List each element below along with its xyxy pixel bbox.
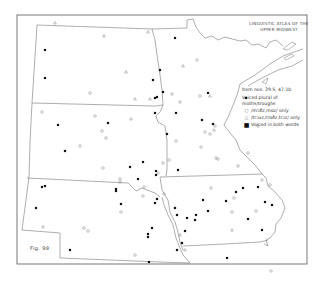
open-triangle-marker bbox=[134, 98, 137, 101]
filled-square-marker bbox=[151, 227, 153, 229]
filled-square-marker bbox=[156, 198, 158, 200]
filled-square-marker bbox=[115, 188, 117, 190]
filled-square-marker bbox=[41, 186, 43, 188]
filled-square-marker bbox=[207, 210, 209, 212]
open-triangle-marker bbox=[213, 129, 216, 132]
open-circle-icon: ○ bbox=[242, 108, 251, 114]
minnesota-west-border bbox=[152, 29, 167, 176]
open-circle-marker bbox=[247, 152, 250, 155]
open-circle-marker bbox=[199, 95, 202, 98]
open-circle-marker bbox=[269, 184, 272, 187]
legend-entry-filled-square: ■ Voiced in both words bbox=[242, 122, 314, 128]
filled-square-marker bbox=[35, 207, 37, 209]
iowa-west-border bbox=[160, 177, 183, 250]
filled-square-marker bbox=[175, 112, 177, 114]
legend-entry-label: /trɔvz,trɑðz,trɔz/ only bbox=[251, 115, 300, 121]
open-circle-marker bbox=[105, 137, 108, 140]
filled-square-marker bbox=[155, 174, 157, 176]
filled-square-marker bbox=[154, 202, 156, 204]
filled-square-marker bbox=[261, 229, 263, 231]
filled-square-marker bbox=[154, 112, 156, 114]
filled-square-marker bbox=[154, 97, 156, 99]
filled-square-marker bbox=[177, 169, 179, 171]
legend: Item nos. 29.5, 47.1b Voiced plural of m… bbox=[242, 87, 314, 128]
open-circle-marker bbox=[270, 270, 273, 273]
open-circle-marker bbox=[89, 92, 92, 95]
open-circle-marker bbox=[175, 140, 178, 143]
atlas-title-line1: LINGUISTIC ATLAS OF THE bbox=[244, 21, 314, 27]
iowa-east-border bbox=[262, 174, 285, 246]
filled-square-marker bbox=[225, 200, 227, 202]
legend-entry-label: Voiced in both words bbox=[251, 122, 299, 128]
lake-superior-shore bbox=[240, 49, 303, 84]
filled-square-marker bbox=[176, 214, 178, 216]
filled-square-marker bbox=[174, 207, 176, 209]
filled-square-marker bbox=[207, 92, 209, 94]
open-triangle-marker bbox=[184, 249, 187, 252]
filled-square-marker bbox=[69, 249, 71, 251]
open-circle-marker bbox=[237, 165, 240, 168]
open-triangle-marker bbox=[125, 71, 128, 74]
legend-item-numbers: Item nos. 29.5, 47.1b bbox=[242, 87, 314, 93]
open-circle-marker bbox=[102, 167, 105, 170]
filled-square-marker bbox=[44, 49, 46, 51]
filled-square-marker bbox=[107, 122, 109, 124]
map-frame bbox=[17, 15, 307, 264]
open-triangle-marker bbox=[103, 35, 106, 38]
filled-square-icon: ■ bbox=[242, 122, 251, 128]
filled-square-marker bbox=[152, 79, 154, 81]
open-triangle-marker bbox=[179, 234, 182, 237]
iowa-south-border bbox=[183, 240, 268, 246]
filled-square-marker bbox=[64, 150, 66, 152]
open-circle-marker bbox=[261, 179, 264, 182]
filled-square-marker bbox=[176, 249, 178, 251]
open-circle-marker bbox=[214, 125, 217, 128]
open-circle-marker bbox=[171, 93, 174, 96]
open-circle-marker bbox=[134, 254, 137, 257]
open-circle-marker bbox=[41, 111, 44, 114]
atlas-title: LINGUISTIC ATLAS OF THE UPPER MIDWEST bbox=[244, 21, 314, 32]
filled-square-marker bbox=[201, 119, 203, 121]
open-circle-marker bbox=[142, 195, 145, 198]
filled-square-marker bbox=[235, 191, 237, 193]
filled-square-marker bbox=[137, 178, 139, 180]
open-circle-marker bbox=[94, 115, 97, 118]
open-circle-marker bbox=[255, 210, 258, 213]
legend-entry-open-circle: ○ /mɔðz,mɑz/ only bbox=[242, 108, 314, 114]
open-circle-marker bbox=[83, 227, 86, 230]
filled-square-marker bbox=[147, 233, 149, 235]
filled-square-marker bbox=[115, 190, 117, 192]
sd-ne-border bbox=[27, 178, 160, 197]
open-circle-marker bbox=[42, 226, 45, 229]
filled-square-marker bbox=[44, 77, 46, 79]
legend-entry-label: /mɔðz,mɑz/ only bbox=[251, 108, 289, 114]
filled-square-marker bbox=[120, 203, 122, 205]
open-circle-marker bbox=[101, 130, 104, 133]
open-circle-marker bbox=[168, 159, 171, 162]
filled-square-marker bbox=[247, 218, 249, 220]
filled-square-marker bbox=[129, 166, 131, 168]
open-circle-marker bbox=[179, 101, 182, 104]
open-circle-marker bbox=[209, 133, 212, 136]
open-circle-marker bbox=[162, 162, 165, 165]
legend-entry-open-triangle: △ /trɔvz,trɑðz,trɔz/ only bbox=[242, 115, 314, 121]
filled-square-marker bbox=[166, 133, 168, 135]
open-triangle-marker bbox=[130, 118, 133, 121]
north-dakota-west-border bbox=[22, 25, 37, 230]
open-circle-marker bbox=[119, 178, 122, 181]
open-circle-marker bbox=[196, 59, 199, 62]
nebraska-south-border bbox=[22, 197, 190, 263]
isle-royale bbox=[283, 42, 296, 50]
marker-layer bbox=[35, 22, 273, 273]
open-triangle-marker bbox=[149, 98, 152, 101]
filled-square-marker bbox=[147, 236, 149, 238]
open-triangle-marker bbox=[182, 65, 185, 68]
open-circle-marker bbox=[119, 181, 122, 184]
filled-square-marker bbox=[264, 201, 266, 203]
filled-square-marker bbox=[57, 124, 59, 126]
nd-sd-border bbox=[32, 103, 155, 106]
open-triangle-marker bbox=[147, 31, 150, 34]
filled-square-marker bbox=[212, 123, 214, 125]
open-circle-marker bbox=[120, 211, 123, 214]
open-circle-marker bbox=[233, 197, 236, 200]
